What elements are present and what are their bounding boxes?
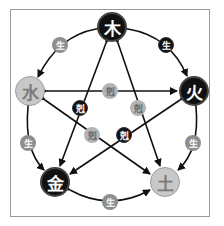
element-node-wood: 木 [97, 12, 127, 42]
element-node-earth: 土 [150, 167, 180, 197]
element-node-fire: 火 [179, 76, 209, 106]
overcome-badge-3: 剋 [84, 127, 100, 143]
overcome-badge-1: 剋 [72, 100, 88, 116]
element-node-metal: 金 [40, 167, 70, 197]
generate-badge-2: 生 [20, 135, 36, 151]
generate-badge-3: 生 [185, 135, 201, 151]
overcome-badge-4: 剋 [116, 127, 132, 143]
overcome-badge-2: 剋 [130, 100, 146, 116]
arc-wood-fire [128, 29, 187, 76]
generate-badge-4: 生 [102, 194, 118, 210]
arc-wood-water [38, 29, 96, 77]
element-node-water: 水 [15, 76, 45, 106]
generate-badge-1: 生 [158, 37, 174, 53]
overcome-badge-0: 剋 [102, 83, 118, 99]
generate-badge-0: 生 [52, 37, 68, 53]
